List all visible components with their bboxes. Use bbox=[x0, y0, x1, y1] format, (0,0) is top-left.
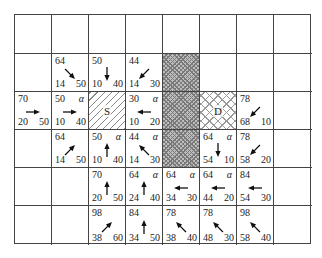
empty-cell bbox=[274, 92, 312, 130]
start-cell: S bbox=[89, 92, 126, 130]
parent-arrow-nw-icon bbox=[246, 218, 264, 236]
scored-cell: 641450 bbox=[52, 130, 89, 168]
scored-cell: 501040 bbox=[89, 54, 126, 92]
destination-label: D bbox=[200, 104, 236, 118]
scored-cell: 783840 bbox=[163, 206, 200, 245]
scored-cell: 983860 bbox=[89, 206, 126, 245]
empty-cell bbox=[274, 54, 312, 92]
parent-arrow-s-icon bbox=[209, 141, 227, 159]
empty-cell bbox=[274, 15, 312, 54]
empty-cell bbox=[200, 54, 237, 92]
obstacle-cell bbox=[163, 130, 200, 168]
scored-cell: 501040α bbox=[52, 92, 89, 130]
scored-cell: 843450 bbox=[126, 206, 163, 245]
scored-cell: 641450 bbox=[52, 54, 89, 92]
closed-marker: α bbox=[153, 169, 158, 180]
closed-marker: α bbox=[227, 169, 232, 180]
empty-cell bbox=[89, 15, 126, 54]
scored-cell: 702050 bbox=[15, 92, 52, 130]
closed-marker: α bbox=[190, 169, 195, 180]
scored-cell: 702050 bbox=[89, 168, 126, 206]
obstacle-cell bbox=[163, 54, 200, 92]
empty-cell bbox=[163, 15, 200, 54]
parent-arrow-e-icon bbox=[24, 103, 42, 121]
scored-cell: 845430 bbox=[237, 168, 274, 206]
scored-cell: 301020α bbox=[126, 92, 163, 130]
parent-arrow-n-icon bbox=[98, 179, 116, 197]
destination-label-text: D bbox=[213, 105, 223, 117]
f-cost: 98 bbox=[92, 207, 102, 218]
parent-arrow-nw-icon bbox=[135, 141, 153, 159]
parent-arrow-n-icon bbox=[98, 141, 116, 159]
destination-cell: D bbox=[200, 92, 237, 130]
start-label-text: S bbox=[103, 105, 111, 117]
empty-cell bbox=[15, 54, 52, 92]
scored-cell: 441430 bbox=[126, 54, 163, 92]
parent-arrow-sw-icon bbox=[135, 65, 153, 83]
parent-arrow-sw-icon bbox=[246, 141, 264, 159]
closed-marker: α bbox=[79, 93, 84, 104]
obstacle-cell bbox=[163, 92, 200, 130]
empty-cell bbox=[200, 15, 237, 54]
scored-cell: 985840 bbox=[237, 206, 274, 245]
empty-cell bbox=[15, 168, 52, 206]
empty-cell bbox=[52, 206, 89, 245]
parent-arrow-n-icon bbox=[135, 179, 153, 197]
parent-arrow-w-icon bbox=[172, 179, 190, 197]
scored-cell: 784830 bbox=[200, 206, 237, 245]
parent-arrow-ne-icon bbox=[61, 141, 79, 159]
closed-marker: α bbox=[227, 131, 232, 142]
parent-arrow-nw-icon bbox=[209, 218, 227, 236]
f-cost: 98 bbox=[240, 207, 250, 218]
f-cost: 78 bbox=[166, 207, 176, 218]
scored-cell: 643430α bbox=[163, 168, 200, 206]
parent-arrow-s-icon bbox=[98, 65, 116, 83]
empty-cell bbox=[237, 54, 274, 92]
scored-cell: 501040α bbox=[89, 130, 126, 168]
scored-cell: 645410α bbox=[200, 130, 237, 168]
empty-cell bbox=[15, 206, 52, 245]
empty-cell bbox=[52, 168, 89, 206]
start-label: S bbox=[89, 104, 125, 118]
empty-cell bbox=[52, 15, 89, 54]
parent-arrow-w-icon bbox=[246, 179, 264, 197]
closed-marker: α bbox=[153, 131, 158, 142]
f-cost: 84 bbox=[129, 207, 139, 218]
closed-marker: α bbox=[153, 93, 158, 104]
empty-cell bbox=[274, 130, 312, 168]
scored-cell: 785820 bbox=[237, 130, 274, 168]
f-cost: 78 bbox=[203, 207, 213, 218]
empty-cell bbox=[274, 168, 312, 206]
scored-cell: 786810 bbox=[237, 92, 274, 130]
empty-cell bbox=[237, 15, 274, 54]
empty-cell bbox=[274, 206, 312, 245]
scored-cell: 644420α bbox=[200, 168, 237, 206]
parent-arrow-w-icon bbox=[135, 103, 153, 121]
closed-marker: α bbox=[116, 131, 121, 142]
parent-arrow-se-icon bbox=[61, 65, 79, 83]
parent-arrow-sw-icon bbox=[246, 103, 264, 121]
parent-arrow-w-icon bbox=[209, 179, 227, 197]
parent-arrow-nw-icon bbox=[172, 218, 190, 236]
empty-cell bbox=[126, 15, 163, 54]
parent-arrow-e-icon bbox=[61, 103, 79, 121]
scored-cell: 441430α bbox=[126, 130, 163, 168]
parent-arrow-n-icon bbox=[135, 218, 153, 236]
empty-cell bbox=[15, 130, 52, 168]
astar-grid: 641450501040441430702050501040αS301020αD… bbox=[14, 14, 311, 244]
scored-cell: 642440α bbox=[126, 168, 163, 206]
parent-arrow-ne-icon bbox=[98, 218, 116, 236]
empty-cell bbox=[15, 15, 52, 54]
